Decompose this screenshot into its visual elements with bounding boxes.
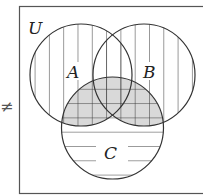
venn-diagram: U A B C ≠: [0, 0, 203, 196]
not-equal-symbol: ≠: [0, 97, 13, 116]
label-universe: U: [28, 18, 43, 38]
label-set-a: A: [65, 62, 79, 82]
label-set-c: C: [104, 143, 117, 163]
label-set-b: B: [142, 62, 156, 82]
